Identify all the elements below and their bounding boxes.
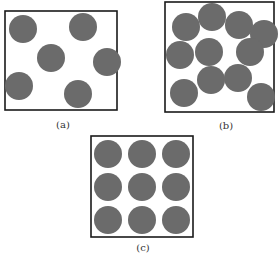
particle [197, 66, 225, 94]
particle [247, 83, 275, 111]
panel-a: (a) [5, 11, 121, 130]
particle [93, 48, 121, 76]
panel-c: (c) [91, 136, 193, 253]
particle-arrangement-diagram: (a) (b) (c) [0, 0, 279, 256]
particle [37, 44, 65, 72]
particle [94, 140, 122, 168]
panel-label-a: (a) [56, 119, 70, 130]
particles-c [94, 140, 190, 234]
particle [69, 13, 97, 41]
particle [170, 79, 198, 107]
particle [9, 15, 37, 43]
particle [166, 41, 194, 69]
particle [128, 206, 156, 234]
particle [128, 173, 156, 201]
panel-b: (b) [165, 2, 278, 131]
particle [198, 3, 226, 31]
panel-label-c: (c) [136, 242, 150, 253]
particle [94, 206, 122, 234]
particle [162, 173, 190, 201]
particle [94, 173, 122, 201]
panel-label-b: (b) [219, 120, 233, 131]
particle [236, 38, 264, 66]
particle [195, 38, 223, 66]
particle [162, 206, 190, 234]
particle [224, 64, 252, 92]
particle [172, 13, 200, 41]
particle [5, 72, 33, 100]
particle [162, 140, 190, 168]
particle [64, 80, 92, 108]
particle [225, 11, 253, 39]
particle [128, 140, 156, 168]
